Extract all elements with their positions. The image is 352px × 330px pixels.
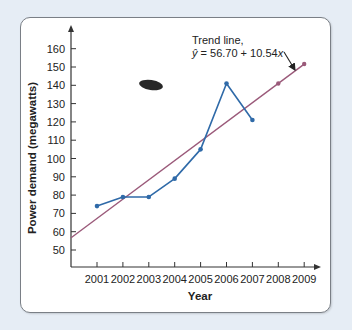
svg-text:Trend line,: Trend line,	[192, 34, 244, 46]
actual-series	[95, 81, 255, 208]
y-tick-label: 90	[53, 171, 65, 183]
y-axis-title: Power demand (megawatts)	[26, 82, 38, 234]
line-chart: 5060708090100110120130140150160 20012002…	[0, 0, 352, 330]
annotation-arrow	[284, 52, 295, 70]
data-point	[147, 195, 152, 200]
x-axis-title: Year	[188, 290, 213, 302]
x-axis-arrow-icon	[314, 264, 321, 270]
y-axis: 5060708090100110120130140150160	[47, 25, 76, 267]
x-axis: 200120022003200420052006200720082009	[71, 262, 321, 285]
y-tick-label: 120	[47, 116, 65, 128]
data-point	[172, 176, 177, 181]
data-point	[250, 118, 255, 123]
forecast-point	[302, 62, 306, 66]
x-tick-label: 2003	[137, 273, 161, 285]
y-tick-label: 140	[47, 79, 65, 91]
svg-text:ŷ = 56.70 + 10.54x: ŷ = 56.70 + 10.54x	[191, 47, 284, 59]
trend-annotation: Trend line, ŷ = 56.70 + 10.54x	[191, 34, 295, 70]
trend-line	[71, 62, 306, 238]
y-tick-label: 70	[53, 207, 65, 219]
y-tick-label: 150	[47, 61, 65, 73]
x-tick-label: 2009	[292, 273, 316, 285]
y-tick-label: 100	[47, 153, 65, 165]
x-tick-label: 2004	[162, 273, 186, 285]
data-point	[95, 204, 100, 209]
y-tick-label: 110	[47, 134, 65, 146]
data-point	[224, 81, 229, 86]
x-tick-label: 2005	[188, 273, 212, 285]
x-tick-label: 2008	[266, 273, 290, 285]
y-tick-label: 160	[47, 43, 65, 55]
data-point	[121, 195, 126, 200]
y-tick-label: 60	[53, 226, 65, 238]
x-tick-label: 2006	[214, 273, 238, 285]
y-tick-label: 80	[53, 189, 65, 201]
y-axis-arrow-icon	[68, 25, 74, 32]
y-tick-label: 50	[53, 244, 65, 256]
ink-smudge	[138, 78, 163, 91]
forecast-point	[276, 81, 280, 85]
x-tick-label: 2007	[240, 273, 264, 285]
data-point	[198, 147, 203, 152]
x-tick-label: 2001	[85, 273, 109, 285]
x-tick-label: 2002	[111, 273, 135, 285]
y-tick-label: 130	[47, 98, 65, 110]
